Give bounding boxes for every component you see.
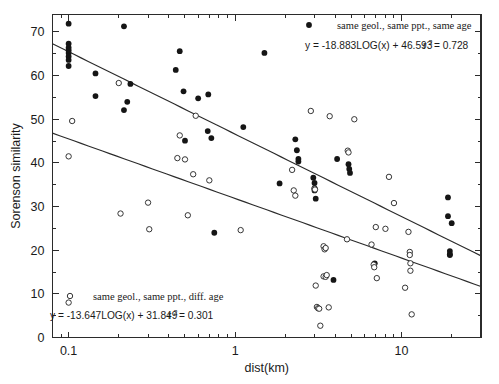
data-point-series-2: [374, 275, 379, 280]
regression-line-1: [53, 44, 482, 256]
data-point-series-2: [383, 226, 388, 231]
data-point-series-2: [324, 272, 329, 277]
scatter-plot-figure: 0102030405060700.1110dist(km)Sorenson si…: [0, 0, 499, 384]
plot-frame: [53, 15, 482, 338]
data-point-series-1: [66, 21, 72, 27]
y-tick-label: 30: [31, 200, 45, 214]
data-point-series-1: [331, 277, 337, 283]
y-tick-label: 60: [31, 69, 45, 83]
r2-label-same-age: r: [423, 40, 427, 51]
x-tick-label: 10: [395, 344, 409, 358]
data-point-series-2: [352, 117, 357, 122]
data-point-series-2: [308, 108, 313, 113]
data-point-series-2: [66, 300, 71, 305]
data-point-series-2: [372, 265, 377, 270]
data-point-series-1: [93, 93, 99, 99]
data-point-series-1: [449, 220, 455, 226]
data-point-series-2: [317, 306, 322, 311]
data-point-series-1: [173, 67, 179, 73]
data-point-series-1: [310, 175, 316, 181]
legend-label-diff-age: same geol., same ppt., diff. age: [93, 291, 224, 302]
data-point-series-2: [289, 167, 294, 172]
chart-canvas: 0102030405060700.1110dist(km)Sorenson si…: [0, 0, 499, 384]
data-point-series-2: [373, 224, 378, 229]
y-tick-label: 70: [31, 25, 45, 39]
y-tick-label: 10: [31, 287, 45, 301]
y-axis-title: Sorenson similarity: [9, 122, 23, 228]
data-point-series-1: [177, 48, 183, 54]
data-point-series-1: [292, 136, 298, 142]
data-point-series-2: [118, 211, 123, 216]
data-point-series-1: [447, 252, 453, 258]
data-point-series-1: [195, 95, 201, 101]
data-point-series-2: [207, 178, 212, 183]
data-point-series-2: [185, 213, 190, 218]
y-tick-label: 40: [31, 156, 45, 170]
data-point-series-1: [181, 88, 187, 94]
data-point-series-2: [408, 261, 413, 266]
data-point-series-1: [445, 213, 451, 219]
data-point-series-1: [262, 50, 268, 56]
data-point-series-1: [313, 196, 319, 202]
data-point-series-1: [445, 194, 451, 200]
data-point-series-1: [66, 63, 72, 69]
data-point-series-2: [323, 245, 328, 250]
data-point-series-2: [190, 172, 195, 177]
data-point-series-1: [121, 107, 127, 113]
regression-line-2: [53, 133, 482, 286]
data-point-series-1: [334, 156, 340, 162]
data-point-series-2: [402, 285, 407, 290]
data-point-series-1: [347, 170, 353, 176]
r2-label-diff-age: r: [168, 310, 172, 321]
data-point-series-2: [406, 229, 411, 234]
data-point-series-2: [69, 118, 74, 123]
r2-exponent-same-age: 2: [429, 38, 433, 47]
data-point-series-1: [294, 147, 300, 153]
data-point-series-2: [238, 227, 243, 232]
data-point-series-2: [182, 157, 187, 162]
data-point-series-1: [124, 99, 130, 105]
y-tick-label: 20: [31, 244, 45, 258]
data-point-series-2: [116, 80, 121, 85]
legend-filled-circle-marker: [306, 22, 312, 28]
data-point-series-1: [312, 180, 318, 186]
data-point-series-2: [313, 283, 318, 288]
data-point-series-2: [291, 188, 296, 193]
data-point-series-1: [182, 138, 188, 144]
data-point-series-2: [312, 187, 317, 192]
data-point-series-1: [205, 91, 211, 97]
data-point-series-1: [205, 128, 211, 134]
data-point-series-2: [326, 305, 331, 310]
data-point-series-1: [277, 181, 283, 187]
y-tick-label: 50: [31, 113, 45, 127]
data-point-series-2: [327, 114, 332, 119]
data-point-series-1: [93, 71, 99, 77]
data-point-series-2: [293, 193, 298, 198]
legend-open-circle-marker: [67, 293, 72, 298]
data-point-series-1: [127, 81, 133, 87]
r2-value-diff-age: = 0.301: [179, 310, 214, 321]
data-point-series-2: [147, 227, 152, 232]
legend-label-same-age: same geol., same ppt., same age: [337, 20, 472, 31]
equation-diff-age: y = -13.647LOG(x) + 31.849: [50, 310, 178, 321]
data-point-series-1: [211, 230, 217, 236]
data-point-series-2: [193, 113, 198, 118]
x-axis-title: dist(km): [245, 361, 289, 375]
equation-same-age: y = -18.883LOG(x) + 46.593: [305, 40, 433, 51]
x-tick-label: 0.1: [60, 344, 77, 358]
x-tick-label: 1: [232, 344, 239, 358]
r2-value-same-age: = 0.728: [434, 40, 469, 51]
data-point-series-2: [409, 312, 414, 317]
data-point-series-2: [177, 133, 182, 138]
data-point-series-2: [391, 200, 396, 205]
data-point-series-2: [175, 155, 180, 160]
r2-exponent-diff-age: 2: [174, 308, 178, 317]
data-point-series-1: [208, 135, 214, 141]
data-point-series-2: [407, 252, 412, 257]
data-point-series-1: [240, 124, 246, 130]
data-point-series-1: [66, 57, 72, 63]
data-point-series-2: [145, 200, 150, 205]
data-point-series-2: [66, 154, 71, 159]
data-point-series-2: [369, 242, 374, 247]
data-point-series-1: [121, 23, 127, 29]
